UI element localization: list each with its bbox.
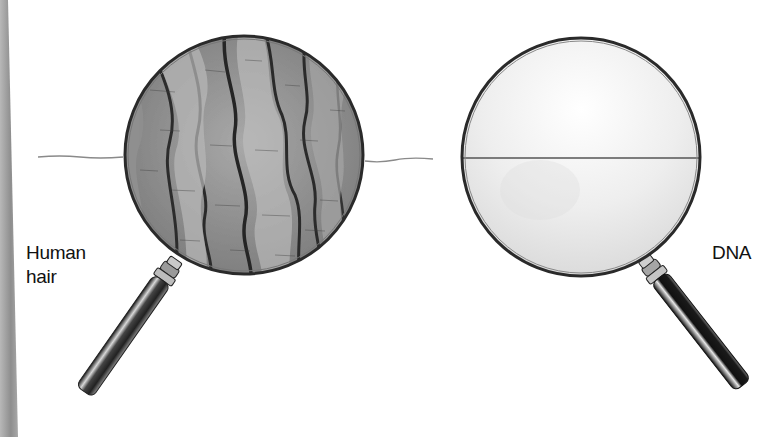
dna-label: DNA	[712, 241, 751, 265]
right-magnifier-handle	[635, 251, 751, 391]
dna-label-line-1: DNA	[712, 241, 751, 265]
left-magnifier-handle	[75, 253, 185, 398]
human-hair-label-line-2: hair	[26, 265, 86, 289]
left-magnifier-lens	[125, 30, 363, 285]
right-magnifier-lens	[462, 38, 700, 276]
diagram-canvas	[0, 0, 776, 437]
human-hair-label-line-1: Human	[26, 241, 86, 265]
magnifier-comparison-diagram: Human hair DNA	[0, 0, 776, 437]
human-hair-label: Human hair	[26, 241, 86, 289]
